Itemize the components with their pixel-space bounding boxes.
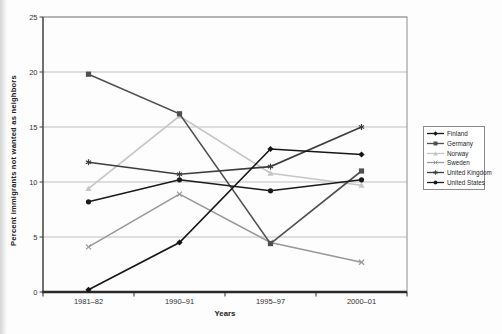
legend-item: United Kingdom [427, 168, 484, 177]
legend-label: Finland [447, 130, 468, 137]
series-united-states [86, 177, 364, 204]
x-axis-title: Years [175, 309, 275, 318]
legend-key-asterisk-icon [427, 168, 445, 177]
gridlines [43, 17, 407, 237]
series-germany [86, 72, 364, 247]
line-chart-figure: 05101520251981–821990–911995–972000–01 P… [0, 0, 502, 334]
legend-label: United States [447, 179, 485, 186]
y-axis-title: Percent immigrants not wanted as neighbo… [9, 61, 20, 261]
axes [40, 17, 408, 297]
legend-item: Sweden [427, 158, 484, 167]
legend-key-diamond-icon [427, 129, 445, 138]
y-tick-label: 20 [29, 68, 37, 77]
legend-item: United States [427, 178, 484, 187]
y-tick-label: 0 [33, 288, 37, 297]
legend-label: Sweden [447, 159, 470, 166]
legend-key-square-icon [427, 139, 445, 148]
tick-labels: 05101520251981–821990–911995–972000–01 [29, 13, 376, 306]
legend-label: Norway [447, 150, 468, 157]
y-tick-label: 15 [29, 123, 37, 132]
legend-label: United Kingdom [447, 169, 492, 176]
legend-label: Germany [447, 140, 473, 147]
legend-key-triangle-icon [427, 149, 445, 158]
series-united-kingdom [86, 124, 364, 177]
legend-item: Finland [427, 129, 484, 138]
y-tick-label: 5 [33, 233, 37, 242]
legend-key-x-icon [427, 158, 445, 167]
y-tick-label: 10 [29, 178, 37, 187]
legend-key-circle-icon [427, 178, 445, 187]
legend-item: Norway [427, 149, 484, 158]
legend: FinlandGermanyNorwaySwedenUnited Kingdom… [423, 126, 485, 190]
x-tick-label: 1995–97 [256, 297, 285, 306]
legend-item: Germany [427, 139, 484, 148]
x-tick-label: 2000–01 [347, 297, 376, 306]
y-tick-label: 25 [29, 13, 37, 22]
x-tick-label: 1981–82 [74, 297, 103, 306]
x-tick-label: 1990–91 [165, 297, 194, 306]
